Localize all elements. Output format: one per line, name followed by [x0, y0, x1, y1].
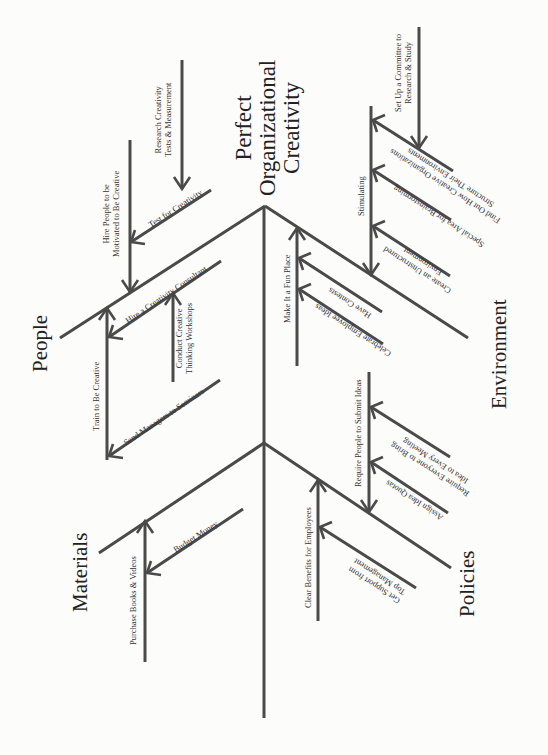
label-require: Require People to Submit Ideas: [354, 379, 364, 487]
label-hire-people: Hire People to be Motivated to Be Creati…: [102, 171, 122, 257]
title-line-3: Creativity: [280, 60, 304, 196]
label-fun: Make It a Fun Place: [283, 255, 293, 323]
branch-materials: [99, 443, 264, 553]
title-line-1: Perfect: [232, 60, 256, 196]
label-line: Tests & Measurement: [164, 83, 174, 157]
category-policies: Policies: [455, 551, 479, 618]
label-stimulating: Stimulating: [357, 176, 367, 216]
category-materials: Materials: [68, 533, 92, 612]
label-setup: Set Up a Committee to Research & Study: [394, 34, 414, 112]
label-benefits: Clear Benefits for Employees: [304, 507, 314, 608]
label-research: Research Creativity Tests & Measurement: [154, 83, 174, 157]
fishbone-diagram: Perfect Organizational Creativity People…: [0, 0, 548, 755]
label-purchase: Purchase Books & Videos: [129, 556, 139, 645]
category-people: People: [28, 315, 52, 372]
title-line-2: Organizational: [256, 60, 280, 196]
label-train: Train to Be Creative: [92, 362, 102, 431]
branch-people: [60, 206, 265, 338]
label-line: Research & Study: [404, 34, 414, 112]
label-line: Motivated to Be Creative: [112, 171, 122, 257]
label-conduct: Conduct Creative Thinking Workshops: [175, 303, 195, 374]
effect-title: Perfect Organizational Creativity: [232, 60, 304, 196]
category-environment: Environment: [487, 299, 511, 409]
label-line: Thinking Workshops: [185, 303, 195, 374]
